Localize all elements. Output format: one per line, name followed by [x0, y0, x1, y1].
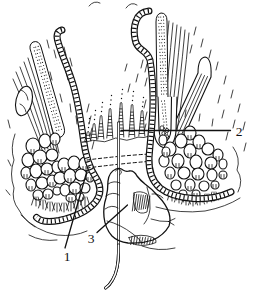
medical-illustration-page: 1 2 3 [0, 0, 255, 294]
label-2: 2 [236, 124, 243, 139]
label-1: 1 [64, 249, 71, 264]
label-3: 3 [88, 231, 95, 246]
anatomy-figure: 1 2 3 [0, 0, 255, 294]
right-internal-sphincter-strip [156, 13, 168, 97]
